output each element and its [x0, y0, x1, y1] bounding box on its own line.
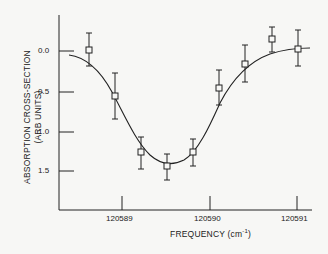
x-tick-label: 120589: [106, 214, 133, 223]
x-tick-label: 120591: [281, 214, 308, 223]
plot-area: [0, 0, 328, 254]
fit-curve: [69, 48, 310, 163]
x-axis-label: FREQUENCY (cm-1): [170, 228, 251, 239]
x-tick-label: 120590: [194, 214, 221, 223]
y-axis-label: ABSORPTION CROSS-SECTION (ARB UNITS): [22, 32, 44, 202]
chart: 0.0 0.5 1.0 1.5 120589 120590 120591 ABS…: [0, 0, 328, 254]
